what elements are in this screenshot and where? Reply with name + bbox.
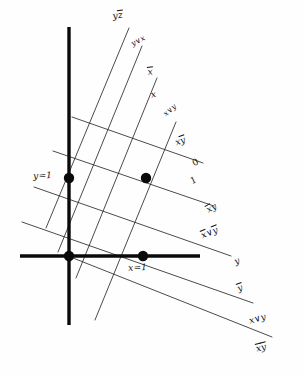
point-x-equals-1[interactable] <box>138 251 148 261</box>
point-interior[interactable] <box>141 173 151 183</box>
shallow-line-3 <box>34 187 231 256</box>
lattice-points <box>64 173 151 261</box>
label-x-equals-1: x=1 <box>128 263 147 273</box>
label-y-equals-1: y=1 <box>33 171 52 181</box>
label-xbar: x <box>147 67 153 77</box>
label-y-zbar: yz <box>112 11 123 21</box>
label-xbar-part-0: x <box>147 67 153 77</box>
shallow-line-5 <box>68 256 272 337</box>
diagram-canvas: yzy∨xxxx∨yxy01xyx∨yyyx∨yxyy=1x=1 <box>0 0 305 376</box>
steep-line-family <box>46 28 176 320</box>
steep-line-4 <box>95 122 176 320</box>
point-origin[interactable] <box>64 251 74 261</box>
label-y-zbar-part-1: z <box>117 11 123 21</box>
steep-line-1 <box>46 28 129 228</box>
point-y-equals-1[interactable] <box>64 173 74 183</box>
shallow-line-family <box>22 117 272 337</box>
